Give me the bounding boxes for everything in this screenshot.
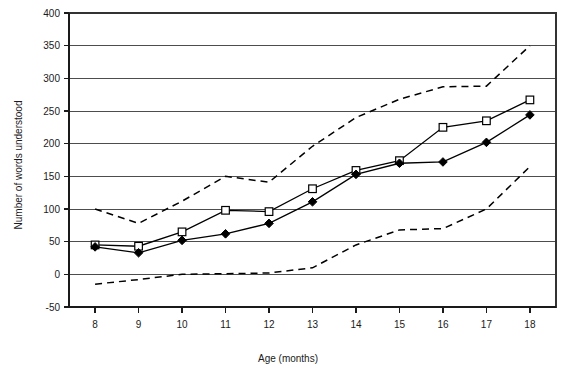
data-point-median-open-square-18	[526, 96, 534, 104]
y-tick-label--50: -50	[46, 302, 61, 313]
x-tick-label-10: 10	[176, 319, 188, 330]
x-tick-label-11: 11	[220, 319, 231, 330]
x-tick-label-8: 8	[92, 319, 98, 330]
x-tick-label-18: 18	[524, 319, 536, 330]
data-point-median-open-square-11	[222, 207, 230, 215]
y-tick-label-300: 300	[43, 73, 60, 84]
series-line-median-filled-diamond	[95, 115, 530, 253]
x-tick-label-17: 17	[481, 319, 493, 330]
data-point-median-open-square-17	[483, 117, 491, 125]
y-tick-label-0: 0	[54, 269, 60, 280]
x-tick-label-14: 14	[350, 319, 362, 330]
x-axis	[69, 307, 556, 313]
series-line-upper-percentile	[95, 46, 530, 224]
y-tick-label-150: 150	[43, 171, 60, 182]
axis-labels-group: -500501001502002503003504008910111213141…	[43, 8, 536, 331]
data-point-median-open-square-16	[439, 124, 447, 132]
series-line-median-open-square	[95, 100, 530, 246]
y-tick-label-50: 50	[49, 236, 61, 247]
data-point-median-open-square-10	[178, 228, 186, 236]
y-tick-label-350: 350	[43, 40, 60, 51]
y-tick-label-100: 100	[43, 204, 60, 215]
y-tick-label-200: 200	[43, 138, 60, 149]
data-point-median-filled-diamond-10	[178, 236, 187, 245]
x-axis-title: Age (months)	[258, 353, 318, 364]
y-tick-label-250: 250	[43, 106, 60, 117]
data-point-median-open-square-12	[265, 208, 273, 216]
data-point-median-filled-diamond-16	[439, 158, 448, 167]
data-point-median-filled-diamond-11	[221, 230, 230, 239]
word-comprehension-line-chart: -500501001502002503003504008910111213141…	[0, 0, 576, 373]
series-group	[95, 46, 530, 284]
y-axis-title: Number of words understood	[13, 101, 24, 230]
x-tick-label-16: 16	[437, 319, 449, 330]
x-tick-label-15: 15	[394, 319, 406, 330]
x-tick-label-9: 9	[136, 319, 142, 330]
plot-border	[69, 13, 556, 307]
gridlines-group	[69, 13, 556, 307]
series-line-lower-percentile	[95, 167, 530, 285]
data-point-median-filled-diamond-13	[308, 198, 317, 207]
data-point-median-filled-diamond-18	[526, 111, 535, 120]
y-axis	[64, 13, 69, 307]
y-tick-label-400: 400	[43, 8, 60, 19]
data-point-median-filled-diamond-12	[265, 219, 274, 228]
data-point-median-open-square-13	[309, 185, 317, 193]
x-tick-label-12: 12	[263, 319, 275, 330]
x-tick-label-13: 13	[307, 319, 319, 330]
data-point-median-filled-diamond-17	[482, 138, 491, 147]
chart-canvas: -500501001502002503003504008910111213141…	[0, 0, 576, 373]
plot-frame	[69, 13, 556, 307]
